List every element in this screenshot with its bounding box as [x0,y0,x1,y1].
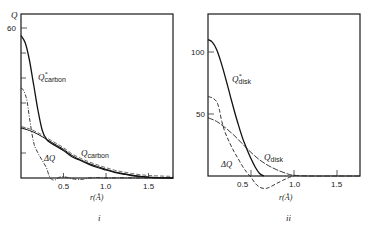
panel-i-x-tick-1.0: 1.0 [100,182,112,191]
panel-i-label-delta-q: ΔQ [43,153,55,163]
panel-ii-caption: ii [286,213,292,223]
panel-i-label-qstar-carbon: Q*carbon [38,71,66,83]
panel-ii-label-qstar-disk: Q*disk [232,73,251,85]
panel-ii-x-tick-1.5: 1.5 [331,180,343,189]
panel-ii-x-axis-label: r(Å) [279,193,293,202]
panel-ii-y-ticks [208,52,214,114]
panel-i-y-axis-label: Q [11,10,18,20]
panel-ii-x-tick-0.5: 0.5 [237,180,249,189]
panel-ii-x-tick-1.0: 1.0 [289,180,301,189]
panel-i-x-tick-1.5: 1.5 [143,182,155,191]
panel-i-caption: i [98,213,101,223]
panel-i-x-axis-label: r(Å) [90,193,104,202]
panel-ii: 100 50 0.5 1.0 1.5 r(Å) ii Q*disk Qdisk … [191,14,360,223]
panel-ii-label-delta-q: ΔQ [220,159,232,169]
panel-ii-frame [208,14,360,176]
panel-ii-y-tick-100: 100 [191,48,205,57]
panel-i-y-tick-60: 60 [7,24,16,33]
panel-i-label-q-carbon: Qcarbon [81,148,109,159]
panel-i-x-tick-0.5: 0.5 [58,182,70,191]
figure: Q 60 0.5 1.0 1.5 r(Å) i Q*carbon Qcarbon… [0,0,369,229]
panel-ii-label-q-disk: Qdisk [264,152,283,163]
panel-ii-y-tick-50: 50 [196,110,205,119]
panel-i: Q 60 0.5 1.0 1.5 r(Å) i Q*carbon Qcarbon… [7,10,173,223]
